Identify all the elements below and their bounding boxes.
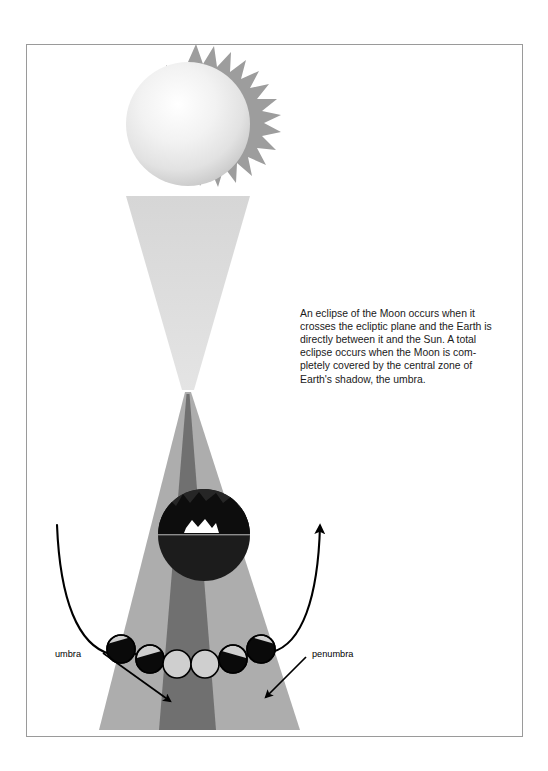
penumbra-label: penumbra (312, 649, 354, 659)
caption-line-3: directly between it and the Sun. A total (300, 334, 476, 345)
moon-4 (191, 650, 219, 678)
diagram-canvas: umbra penumbra An eclipse of the Moon oc… (0, 0, 548, 771)
caption-line-6: Earth's shadow, the umbra. (300, 374, 426, 385)
lunar-eclipse-figure: umbra penumbra An eclipse of the Moon oc… (0, 0, 548, 771)
moon-3 (163, 650, 191, 678)
sun (126, 62, 250, 186)
caption-line-4: eclipse occurs when the Moon is com- (300, 347, 476, 358)
caption-line-2: crosses the ecliptic plane and the Earth… (300, 321, 492, 332)
caption-line-5: pletely covered by the central zone of (300, 360, 472, 371)
umbra-label: umbra (55, 649, 82, 659)
caption-line-1: An eclipse of the Moon occurs when it (300, 308, 475, 319)
earth (158, 489, 250, 581)
